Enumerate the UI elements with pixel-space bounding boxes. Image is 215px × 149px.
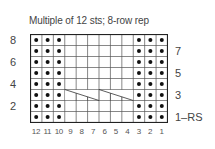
purl-dot [57,49,61,53]
purl-dot [34,49,38,53]
purl-dot [148,115,152,119]
column-label-7: 7 [88,127,99,136]
purl-dot [137,49,141,53]
purl-dot [34,115,38,119]
purl-dot [160,60,164,64]
purl-dot [160,104,164,108]
purl-dot [57,60,61,64]
column-label-9: 9 [65,127,76,136]
purl-dot [57,93,61,97]
purl-dot [137,115,141,119]
purl-dot [160,49,164,53]
row-label-1: 1–RS [175,112,203,123]
purl-dot [148,104,152,108]
column-label-4: 4 [122,127,133,136]
cable-crossing-symbol [65,90,134,101]
purl-dot [160,82,164,86]
purl-dot [148,49,152,53]
purl-dot [46,71,50,75]
purl-dot [46,104,50,108]
purl-dot [57,82,61,86]
grid-lines [31,35,168,123]
row-label-2: 2 [10,101,16,112]
knitting-chart-grid [30,34,168,123]
row-label-8: 8 [10,35,16,46]
purl-dot [137,82,141,86]
purl-dot [34,93,38,97]
purl-dot [46,82,50,86]
purl-dot [46,49,50,53]
column-label-10: 10 [53,127,64,136]
row-label-7: 7 [175,46,181,57]
purl-dot [57,71,61,75]
purl-dot [57,104,61,108]
purl-dot [46,93,50,97]
purl-dot [160,71,164,75]
purl-dot [137,38,141,42]
purl-dot [148,82,152,86]
purl-dot [137,104,141,108]
purl-dot [137,71,141,75]
column-label-12: 12 [31,127,42,136]
column-label-2: 2 [145,127,156,136]
purl-dot [160,38,164,42]
column-label-3: 3 [133,127,144,136]
column-label-6: 6 [99,127,110,136]
purl-dot [34,71,38,75]
purl-dot [46,60,50,64]
purl-dot [148,71,152,75]
purl-dot [57,38,61,42]
purl-dot [57,115,61,119]
purl-dot [148,60,152,64]
purl-dot [46,38,50,42]
column-label-8: 8 [76,127,87,136]
purl-dot [148,38,152,42]
column-label-11: 11 [42,127,53,136]
row-label-6: 6 [10,57,16,68]
purl-dot [148,93,152,97]
chart-title: Multiple of 12 sts; 8-row rep [29,15,149,26]
purl-dot [160,93,164,97]
purl-dot [160,115,164,119]
purl-dot [46,115,50,119]
purl-dot [34,82,38,86]
purl-dot [34,104,38,108]
purl-dot [137,93,141,97]
purl-dot [137,60,141,64]
row-label-4: 4 [10,79,16,90]
column-label-1: 1 [156,127,167,136]
purl-dot [34,38,38,42]
row-label-5: 5 [175,68,181,79]
row-label-3: 3 [175,90,181,101]
purl-dot [34,60,38,64]
column-label-5: 5 [110,127,121,136]
